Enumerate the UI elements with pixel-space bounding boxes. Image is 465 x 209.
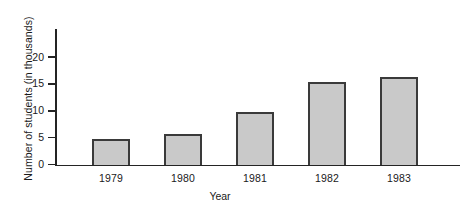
y-tick-label-text: 0: [18, 159, 44, 169]
y-tick-mark: [48, 56, 56, 58]
x-tick-label-1979: 1979: [75, 172, 147, 185]
y-tick-label: 10: [14, 105, 44, 115]
y-tick-label: 15: [14, 78, 44, 88]
y-tick-label-text: 15: [18, 78, 44, 88]
y-tick-mark: [48, 110, 56, 112]
x-tick-label-1982: 1982: [291, 172, 363, 185]
bar-chart: Number of students (in thousands) 051015…: [0, 0, 465, 209]
y-tick-mark: [48, 164, 56, 166]
y-tick-label-text: 5: [18, 132, 44, 142]
x-axis-title: Year: [180, 190, 260, 202]
y-axis-title: Number of students (in thousands): [18, 0, 38, 203]
bar-1979: [92, 139, 130, 165]
bar-1981: [236, 112, 274, 164]
y-tick-label-text: 10: [18, 105, 44, 115]
x-tick-label-1983: 1983: [363, 172, 435, 185]
y-tick-mark: [48, 137, 56, 139]
bar-1983: [380, 77, 418, 165]
x-axis-line: [55, 165, 460, 167]
y-tick-label: 0: [14, 159, 44, 169]
y-tick-mark: [48, 83, 56, 85]
y-tick-label: 5: [14, 132, 44, 142]
x-tick-label-1980: 1980: [147, 172, 219, 185]
y-axis-line: [55, 29, 57, 166]
y-tick-label: 20: [14, 52, 44, 62]
bar-1982: [308, 82, 346, 165]
y-tick-label-text: 20: [18, 52, 44, 62]
x-tick-label-1981: 1981: [219, 172, 291, 185]
bar-1980: [164, 134, 202, 164]
